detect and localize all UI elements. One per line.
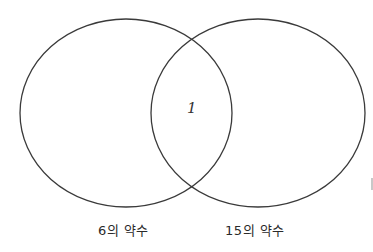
- venn-diagram: [0, 0, 373, 252]
- set-a-label: 6의 약수: [98, 220, 149, 239]
- set-b-ellipse: [151, 19, 365, 207]
- set-a-ellipse: [20, 19, 232, 207]
- set-b-label: 15의 약수: [225, 220, 285, 239]
- intersection-element: 1: [187, 99, 197, 117]
